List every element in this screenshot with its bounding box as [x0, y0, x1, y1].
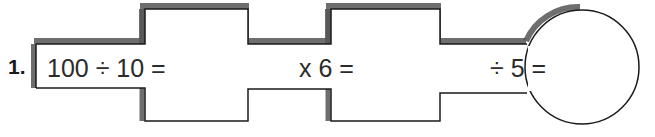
- expression-step-3: ÷ 5 =: [490, 54, 546, 82]
- function-machine-worksheet-item: 1. 100 ÷ 10 = x 6 = ÷ 5 =: [0, 0, 655, 137]
- expression-step-1: 100 ÷ 10 =: [47, 54, 166, 82]
- expression-step-2: x 6 =: [299, 54, 354, 82]
- item-number-label: 1.: [8, 55, 26, 79]
